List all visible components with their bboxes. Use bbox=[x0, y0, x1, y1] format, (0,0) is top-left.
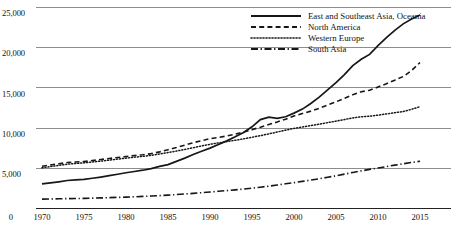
series-line-north-america bbox=[42, 62, 420, 166]
legend-item-east-and-southeast-asia-oceania: East and Southeast Asia, Oceania bbox=[250, 10, 426, 21]
y-tick-label: 20,000 bbox=[2, 49, 36, 58]
series-line-south-asia bbox=[42, 161, 420, 199]
line-chart: 25,000 20,000 15,000 10,000 5,000 East a… bbox=[0, 0, 451, 238]
legend-label: South Asia bbox=[308, 44, 346, 54]
chart-legend: East and Southeast Asia, Oceania North A… bbox=[248, 9, 428, 56]
legend-label: North America bbox=[308, 22, 361, 32]
x-tick-label: 1970 bbox=[24, 212, 60, 222]
y-tick-label: 15,000 bbox=[2, 90, 36, 99]
legend-label: East and Southeast Asia, Oceania bbox=[308, 11, 426, 21]
y-tick-label: 10,000 bbox=[2, 130, 36, 139]
x-tick-label: 1995 bbox=[234, 212, 270, 222]
plot-area: East and Southeast Asia, Oceania North A… bbox=[36, 7, 451, 208]
x-tick-label: 0 bbox=[0, 212, 22, 222]
y-tick-label: 5,000 bbox=[2, 170, 36, 179]
x-tick-label: 1975 bbox=[66, 212, 102, 222]
legend-swatch-dotted-icon bbox=[250, 33, 302, 43]
legend-swatch-dashed-icon bbox=[250, 22, 302, 32]
y-tick-label: 25,000 bbox=[2, 9, 36, 18]
x-tick-label: 2015 bbox=[402, 212, 438, 222]
legend-label: Western Europe bbox=[308, 33, 364, 43]
x-tick-label: 1985 bbox=[150, 212, 186, 222]
legend-item-western-europe: Western Europe bbox=[250, 32, 426, 43]
legend-swatch-dashdot-icon bbox=[250, 44, 302, 54]
x-tick-label: 2005 bbox=[318, 212, 354, 222]
legend-swatch-solid-icon bbox=[250, 11, 302, 21]
legend-item-south-asia: South Asia bbox=[250, 43, 426, 54]
x-tick-label: 1990 bbox=[192, 212, 228, 222]
x-tick-label: 2000 bbox=[276, 212, 312, 222]
x-tick-label: 2010 bbox=[360, 212, 396, 222]
x-axis-line bbox=[36, 208, 451, 209]
x-tick-label: 1980 bbox=[108, 212, 144, 222]
series-line-western-europe bbox=[42, 107, 420, 168]
legend-item-north-america: North America bbox=[250, 21, 426, 32]
y-axis-tick-labels: 25,000 20,000 15,000 10,000 5,000 bbox=[0, 0, 36, 201]
